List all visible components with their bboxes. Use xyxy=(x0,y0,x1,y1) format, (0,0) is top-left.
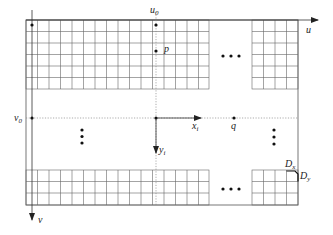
v-axis-label: v xyxy=(38,214,43,225)
point-p xyxy=(154,49,157,52)
dy-label: Dy xyxy=(299,170,311,183)
origin-point xyxy=(30,23,33,26)
ellipsis-vertical-left xyxy=(80,128,83,144)
bottom-left-grid-block xyxy=(26,170,209,205)
center-point xyxy=(154,116,157,119)
diagram-canvas: u0 u p v0 xi q yi Dx Dy v xyxy=(0,0,333,235)
top-left-grid-block xyxy=(26,20,209,89)
ellipsis-vertical-right xyxy=(272,128,275,145)
pixel-size-indicator xyxy=(287,171,299,182)
q-label: q xyxy=(231,120,236,131)
yi-label: yi xyxy=(158,144,165,157)
bottom-right-grid-block xyxy=(252,170,298,205)
image-boundary xyxy=(26,20,298,205)
ellipsis-horizontal-bottom xyxy=(221,187,240,190)
u0-label: u0 xyxy=(150,4,159,17)
dx-label: Dx xyxy=(284,158,296,171)
u-axis-label: u xyxy=(306,24,311,35)
ellipsis-horizontal-top xyxy=(221,54,240,57)
xi-label: xi xyxy=(191,120,198,133)
top-right-grid-block xyxy=(252,20,298,89)
v0-point xyxy=(30,116,33,119)
u0-point xyxy=(154,23,157,26)
p-label: p xyxy=(163,43,169,54)
v0-label: v0 xyxy=(14,112,22,125)
